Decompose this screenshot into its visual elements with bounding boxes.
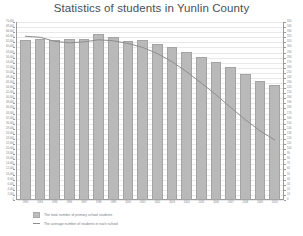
- legend-item-line: The average number of students in each s…: [33, 219, 273, 228]
- chart-container: Statistics of students in Yunlin County …: [0, 0, 303, 236]
- chart-title: Statistics of students in Yunlin County: [0, 2, 303, 14]
- series-layer: [16, 22, 284, 200]
- x-axis-label: 1999: [106, 201, 121, 210]
- x-axis-label: 2004: [179, 201, 194, 210]
- x-axis-label: 2003: [165, 201, 180, 210]
- x-axis-labels: 1993199419951996199719981999200020012002…: [16, 201, 284, 210]
- x-axis-label: 2008: [238, 201, 253, 210]
- x-axis-label: 2009: [253, 201, 268, 210]
- x-axis-label: 1997: [77, 201, 92, 210]
- x-axis-label: 1998: [91, 201, 106, 210]
- x-axis-label: 2002: [150, 201, 165, 210]
- x-axis-label: 1993: [18, 201, 33, 210]
- line-series: [16, 22, 284, 200]
- legend-bar-swatch-icon: [33, 212, 40, 218]
- x-axis-label: 1996: [62, 201, 77, 210]
- y-axis-right-labels: 0102030405060708090100110120130140150160…: [285, 22, 303, 200]
- x-axis-label: 2005: [194, 201, 209, 210]
- legend-bars-label: The total number of primary school stude…: [44, 213, 112, 217]
- x-axis-label: 2001: [135, 201, 150, 210]
- legend-line-swatch-icon: [33, 223, 40, 224]
- x-axis-label: 2006: [209, 201, 224, 210]
- x-axis-label: 1994: [33, 201, 48, 210]
- legend-item-bars: The total number of primary school stude…: [33, 210, 273, 219]
- x-axis-label: 2010: [267, 201, 282, 210]
- legend-line-label: The average number of students in each s…: [44, 222, 118, 226]
- x-axis-label: 1995: [47, 201, 62, 210]
- x-axis-label: 2000: [121, 201, 136, 210]
- x-axis-label: 2007: [223, 201, 238, 210]
- chart-legend: The total number of primary school stude…: [33, 210, 273, 228]
